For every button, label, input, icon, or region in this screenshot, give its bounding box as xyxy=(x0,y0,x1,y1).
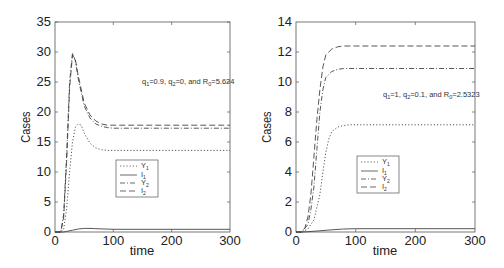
right-plot: 0 2 4 6 8 10 12 14 0 100 200 300 time Ca… xyxy=(259,14,486,258)
left-plot-frame xyxy=(55,22,230,232)
left-ylabel: Cases xyxy=(18,111,33,142)
left-xtick-200: 200 xyxy=(161,233,183,248)
left-ytick-10: 10 xyxy=(37,164,51,179)
right-ytick-10: 10 xyxy=(278,74,292,89)
right-ytick-8: 8 xyxy=(285,104,292,119)
right-ytick-0: 0 xyxy=(285,224,292,239)
figure: 0 5 10 15 20 25 30 35 0 100 200 300 time… xyxy=(0,0,504,268)
right-curves xyxy=(296,46,475,232)
left-xtick-300: 300 xyxy=(219,233,241,248)
right-series-I1 xyxy=(296,229,475,232)
right-xtick-200: 200 xyxy=(404,233,426,248)
right-plot-frame xyxy=(296,22,475,232)
left-annotation: q1=0.9, q2=0, and R0=5.624 xyxy=(142,77,234,87)
left-xtick-0: 0 xyxy=(51,233,58,248)
right-ytick-14: 14 xyxy=(278,14,292,29)
left-ytick-20: 20 xyxy=(37,104,51,119)
left-ytick-30: 30 xyxy=(37,44,51,59)
left-ytick-35: 35 xyxy=(37,14,51,29)
right-series-I2 xyxy=(296,46,475,232)
left-plot: 0 5 10 15 20 25 30 35 0 100 200 300 time… xyxy=(18,14,241,258)
left-series-I1 xyxy=(55,228,230,232)
right-xlabel: time xyxy=(373,243,398,258)
left-ytick-0: 0 xyxy=(44,224,51,239)
left-ytick-25: 25 xyxy=(37,74,51,89)
right-y-ticks xyxy=(296,22,475,232)
left-xlabel: time xyxy=(130,243,155,258)
left-ytick-15: 15 xyxy=(37,134,51,149)
left-ytick-5: 5 xyxy=(44,194,51,209)
right-xtick-100: 100 xyxy=(345,233,367,248)
right-ytick-12: 12 xyxy=(278,44,292,59)
right-annotation: q1=1, q2=0.1, and R0=2.5323 xyxy=(383,90,480,100)
right-legend: Y1 I1 Y2 I2 xyxy=(357,156,399,193)
right-ylabel: Cases xyxy=(259,111,274,142)
right-ytick-4: 4 xyxy=(285,164,292,179)
right-ytick-6: 6 xyxy=(285,134,292,149)
right-xtick-300: 300 xyxy=(464,233,486,248)
left-legend: Y1 I1 Y2 I2 xyxy=(116,160,158,197)
left-xtick-100: 100 xyxy=(102,233,124,248)
right-ytick-2: 2 xyxy=(285,194,292,209)
left-y-ticks xyxy=(55,22,230,232)
right-xtick-0: 0 xyxy=(292,233,299,248)
